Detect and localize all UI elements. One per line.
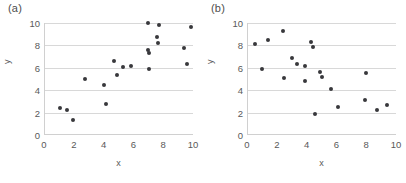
data-point — [157, 23, 161, 27]
data-point — [189, 25, 193, 29]
panel-b-plot-area — [247, 23, 396, 135]
data-point — [115, 73, 119, 77]
data-point — [290, 56, 294, 60]
y-tick-label: 0 — [35, 130, 40, 141]
data-point — [303, 64, 307, 68]
x-tick-label: 6 — [334, 139, 339, 150]
gridline — [45, 90, 193, 91]
data-point — [83, 77, 87, 81]
panel-b-x-axis-label: x — [247, 158, 396, 168]
x-tick-label: 8 — [161, 139, 166, 150]
y-tick-label: 10 — [232, 18, 243, 29]
data-point — [185, 62, 189, 66]
data-point — [282, 76, 286, 80]
data-point — [320, 75, 324, 79]
data-point — [309, 40, 313, 44]
data-point — [318, 70, 322, 74]
panel-b-x-ticks: 0246810 — [247, 139, 396, 153]
panel-b-label: (b) — [211, 2, 225, 14]
y-tick-label: 2 — [35, 107, 40, 118]
data-point — [303, 79, 307, 83]
data-point — [147, 67, 151, 71]
data-point — [182, 46, 186, 50]
x-tick-label: 6 — [131, 139, 136, 150]
gridline — [248, 45, 396, 46]
x-tick-label: 0 — [41, 139, 46, 150]
gridline — [45, 113, 193, 114]
gridline — [248, 90, 396, 91]
data-point — [71, 118, 75, 122]
y-tick-label: 4 — [238, 85, 243, 96]
panel-b-y-axis-label: y — [205, 60, 215, 65]
gridline — [45, 45, 193, 46]
x-tick-label: 2 — [71, 139, 76, 150]
data-point — [295, 62, 299, 66]
panel-a-y-ticks: 0246810 — [18, 23, 40, 135]
data-point — [363, 98, 367, 102]
y-tick-label: 8 — [238, 40, 243, 51]
x-tick-label: 4 — [304, 139, 309, 150]
gridline — [248, 23, 396, 24]
data-point — [260, 67, 264, 71]
data-point — [329, 87, 333, 91]
data-point — [146, 21, 150, 25]
data-point — [112, 59, 116, 63]
gridline — [45, 23, 193, 24]
y-tick-label: 6 — [35, 62, 40, 73]
gridline — [248, 113, 396, 114]
x-tick-label: 0 — [244, 139, 249, 150]
data-point — [58, 106, 62, 110]
panel-a-y-axis-label: y — [2, 60, 12, 65]
x-tick-label: 2 — [274, 139, 279, 150]
y-tick-label: 0 — [238, 130, 243, 141]
gridline — [45, 68, 193, 69]
x-tick-label: 10 — [188, 139, 199, 150]
data-point — [266, 38, 270, 42]
panel-a-plot-area — [44, 23, 193, 135]
y-tick-label: 10 — [29, 18, 40, 29]
panel-a-x-ticks: 0246810 — [44, 139, 193, 153]
data-point — [281, 29, 285, 33]
data-point — [147, 51, 151, 55]
panel-a-label: (a) — [8, 2, 22, 14]
panel-a: (a) y 0246810 0246810 x — [0, 0, 203, 183]
panel-b-y-ticks: 0246810 — [221, 23, 243, 135]
data-point — [155, 35, 159, 39]
x-tick-label: 4 — [101, 139, 106, 150]
y-tick-label: 2 — [238, 107, 243, 118]
data-point — [313, 112, 317, 116]
x-tick-label: 10 — [391, 139, 402, 150]
data-point — [311, 45, 315, 49]
y-tick-label: 4 — [35, 85, 40, 96]
data-point — [385, 103, 389, 107]
x-tick-label: 8 — [364, 139, 369, 150]
data-point — [104, 102, 108, 106]
panel-a-x-axis-label: x — [44, 158, 193, 168]
y-tick-label: 6 — [238, 62, 243, 73]
gridline — [248, 68, 396, 69]
scatter-plot-figure: (a) y 0246810 0246810 x (b) y 0246810 02… — [0, 0, 406, 183]
data-point — [102, 83, 106, 87]
data-point — [336, 105, 340, 109]
y-tick-label: 8 — [35, 40, 40, 51]
data-point — [156, 41, 160, 45]
data-point — [364, 71, 368, 75]
panel-b: (b) y 0246810 0246810 x — [203, 0, 406, 183]
data-point — [253, 42, 257, 46]
